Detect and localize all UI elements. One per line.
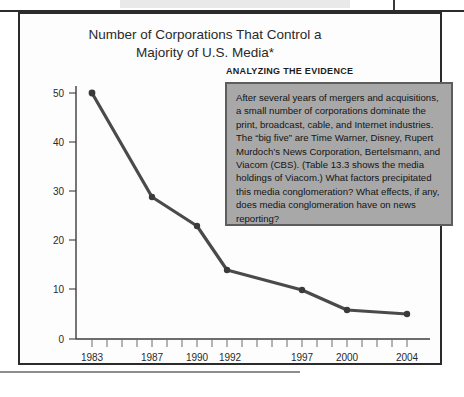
evidence-callout-box: After several years of mergers and acqui… xyxy=(225,82,453,226)
x-tick-label: 1992 xyxy=(219,352,242,363)
y-tick-label: 30 xyxy=(53,186,65,197)
x-tick-label: 2004 xyxy=(396,352,419,363)
y-tick-label: 0 xyxy=(58,334,64,345)
x-tick-label: 1997 xyxy=(291,352,314,363)
data-point xyxy=(404,311,410,317)
x-tick-label: 1987 xyxy=(141,352,164,363)
y-tick-label: 50 xyxy=(53,88,65,99)
y-tick-label: 40 xyxy=(53,137,65,148)
page-bottom-rule xyxy=(0,371,300,373)
y-tick-label: 20 xyxy=(53,235,65,246)
data-point xyxy=(344,307,350,313)
evidence-body-text: After several years of mergers and acqui… xyxy=(236,91,442,225)
page-header-ghost xyxy=(120,0,350,8)
data-point xyxy=(89,90,96,97)
data-point xyxy=(299,287,305,293)
y-axis-tick-labels: 50 40 30 20 10 0 xyxy=(53,88,65,345)
data-point xyxy=(149,194,155,200)
figure-title: Number of Corporations That Control a Ma… xyxy=(40,26,370,62)
x-tick-label: 2000 xyxy=(336,352,359,363)
data-point xyxy=(194,223,200,229)
data-point xyxy=(224,267,230,273)
x-axis-minor-ticks xyxy=(92,339,407,347)
y-tick-label: 10 xyxy=(53,284,65,295)
x-axis-tick-labels: 1983 1987 1990 1992 1997 2000 2004 xyxy=(81,352,419,363)
figure-container: Number of Corporations That Control a Ma… xyxy=(18,12,442,365)
x-tick-label: 1983 xyxy=(81,352,104,363)
y-axis-ticks xyxy=(69,93,76,339)
evidence-heading: ANALYZING THE EVIDENCE xyxy=(226,66,353,76)
x-tick-label: 1990 xyxy=(186,352,209,363)
